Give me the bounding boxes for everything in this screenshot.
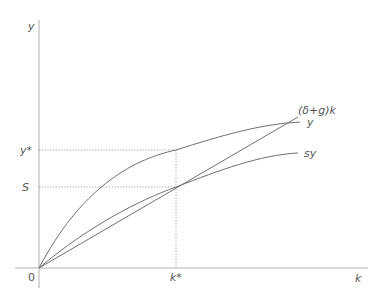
y-axis-label: y — [27, 20, 35, 33]
solow-diagram: y k 0 y* S k* (δ+g)k y sy — [0, 0, 386, 298]
break-even-line — [39, 117, 298, 268]
production-label: y — [306, 116, 314, 129]
origin-label: 0 — [28, 271, 35, 284]
savings-label: sy — [304, 147, 317, 160]
k-star-label: k* — [170, 271, 182, 284]
production-curve — [39, 122, 300, 268]
s-level-label: S — [22, 181, 29, 194]
x-axis-label: k — [355, 272, 362, 285]
y-star-label: y* — [19, 144, 33, 157]
break-even-label: (δ+g)k — [298, 104, 337, 117]
